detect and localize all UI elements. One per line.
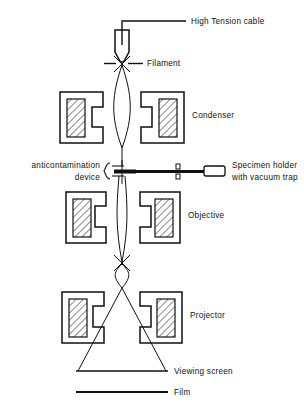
projector-coil-left [69,299,87,337]
film-label: Film [174,388,190,397]
tem-schematic-svg: High Tension cable Filament Condenser an… [0,0,304,411]
specimen-holder-handle [204,166,225,176]
tem-diagram: High Tension cable Filament Condenser an… [0,0,304,411]
condenser-label: Condenser [192,111,234,120]
objective-coil-right [155,199,173,237]
filament-label: Filament [147,59,181,68]
condenser-coil-right [159,99,177,137]
high-tension-cable-label: High Tension cable [191,17,265,26]
viewing-screen-label: Viewing screen [174,367,233,376]
anticontamination-label-line1: anticontamination [32,161,101,170]
anticontamination-label-line2: device [75,173,100,182]
specimen-holder-label-line2: with vacuum trap [231,173,298,182]
specimen-stage [114,170,136,174]
objective-coil-left [73,199,91,237]
projector-coil-right [157,299,175,337]
specimen-holder-label-line1: Specimen holder [232,161,297,170]
condenser-coil-left [67,99,85,137]
projector-label: Projector [190,311,225,320]
objective-label: Objective [188,211,225,220]
specimen-rod-shaft [136,170,204,173]
